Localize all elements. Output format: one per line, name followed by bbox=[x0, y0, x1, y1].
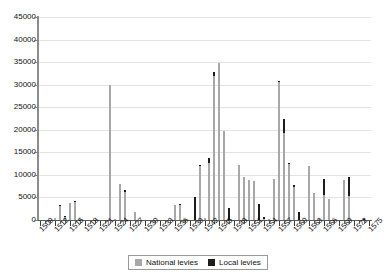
bar-segment-local bbox=[124, 190, 126, 191]
bar-segment-local bbox=[278, 81, 280, 82]
y-tick-label: 20000 bbox=[0, 126, 36, 134]
bar-segment-local bbox=[288, 163, 290, 164]
bar-segment-local bbox=[59, 205, 61, 206]
legend-item-local: Local levies bbox=[208, 258, 261, 267]
y-tick-label: 15000 bbox=[0, 148, 36, 156]
bar-segment-local bbox=[199, 165, 201, 166]
bar-segment-local bbox=[283, 119, 285, 134]
bar-segment-national bbox=[199, 166, 201, 220]
bar-1571 bbox=[348, 177, 350, 220]
bar-1525 bbox=[119, 184, 121, 220]
bar-segment-local bbox=[263, 217, 265, 218]
bar-segment-national bbox=[273, 179, 275, 221]
bar-1550 bbox=[243, 177, 245, 220]
y-tick-label: 10000 bbox=[0, 171, 36, 179]
bar-segment-national bbox=[313, 193, 315, 220]
bar-1570 bbox=[343, 180, 345, 220]
bar-segment-national bbox=[208, 163, 210, 220]
bar-segment-national bbox=[109, 85, 111, 220]
y-tick-label: 30000 bbox=[0, 81, 36, 89]
legend-label-local: Local levies bbox=[219, 258, 261, 267]
bar-1515 bbox=[69, 203, 71, 220]
bar-1556 bbox=[273, 179, 275, 221]
bar-segment-local bbox=[213, 72, 215, 77]
plot-area bbox=[38, 17, 371, 220]
chart-legend: National levies Local levies bbox=[128, 255, 268, 270]
bar-1563 bbox=[308, 166, 310, 220]
bar-segment-local bbox=[74, 201, 76, 202]
bar-segment-national bbox=[119, 184, 121, 220]
bar-segment-local bbox=[293, 185, 295, 186]
bar-segment-national bbox=[253, 181, 255, 220]
bar-1552 bbox=[253, 181, 255, 220]
bar-1543 bbox=[208, 158, 210, 220]
bar-segment-local bbox=[208, 158, 210, 163]
bar-1558 bbox=[283, 119, 285, 221]
bar-1541 bbox=[199, 166, 201, 220]
bar-segment-national bbox=[223, 131, 225, 220]
bar-segment-local bbox=[348, 177, 350, 195]
bar-segment-national bbox=[283, 133, 285, 220]
bar-segment-national bbox=[174, 205, 176, 220]
y-tick-label: 0 bbox=[0, 216, 36, 224]
y-tick-label: 5000 bbox=[0, 193, 36, 201]
bar-1560 bbox=[293, 186, 295, 220]
y-axis-line bbox=[37, 16, 39, 221]
bar-segment-national bbox=[308, 166, 310, 220]
bar-segment-national bbox=[323, 195, 325, 220]
bar-1546 bbox=[223, 131, 225, 220]
bar-segment-national bbox=[288, 164, 290, 220]
bar-1551 bbox=[248, 180, 250, 220]
bar-1557 bbox=[278, 82, 280, 220]
bar-1540 bbox=[194, 197, 196, 220]
bar-segment-national bbox=[248, 180, 250, 220]
bar-segment-national bbox=[278, 82, 280, 220]
bar-1549 bbox=[238, 165, 240, 220]
bar-1566 bbox=[323, 179, 325, 220]
bar-segment-local bbox=[194, 197, 196, 220]
bar-segment-local bbox=[179, 204, 181, 205]
bar-1536 bbox=[174, 205, 176, 220]
bar-segment-national bbox=[328, 199, 330, 220]
bar-1567 bbox=[328, 199, 330, 220]
y-tick-label: 35000 bbox=[0, 58, 36, 66]
bar-segment-local bbox=[323, 179, 325, 195]
bar-segment-national bbox=[243, 177, 245, 220]
legend-label-national: National levies bbox=[146, 258, 198, 267]
bar-1545 bbox=[218, 63, 220, 220]
bar-segment-national bbox=[69, 203, 71, 220]
bar-segment-national bbox=[293, 187, 295, 220]
y-tick-label: 40000 bbox=[0, 36, 36, 44]
y-tick-label: 45000 bbox=[0, 13, 36, 21]
bar-1559 bbox=[288, 164, 290, 220]
bar-segment-national bbox=[238, 165, 240, 220]
black-swatch-icon bbox=[208, 259, 215, 266]
y-tick-label: 25000 bbox=[0, 103, 36, 111]
bar-1523 bbox=[109, 85, 111, 220]
bar-segment-national bbox=[218, 63, 220, 220]
bar-1564 bbox=[313, 193, 315, 220]
gray-swatch-icon bbox=[135, 259, 142, 266]
bar-series-group bbox=[38, 17, 371, 220]
bar-segment-national bbox=[213, 76, 215, 220]
bar-segment-national bbox=[343, 180, 345, 220]
legend-item-national: National levies bbox=[135, 258, 198, 267]
bar-1544 bbox=[213, 72, 215, 220]
